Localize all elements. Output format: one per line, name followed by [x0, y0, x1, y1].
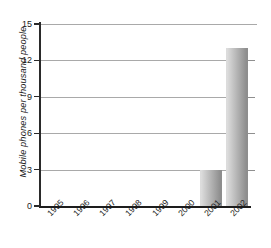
bar-2002	[226, 48, 248, 206]
bars-layer	[0, 0, 271, 206]
chart-figure: Mobile phones per thousand people 036912…	[0, 0, 271, 248]
